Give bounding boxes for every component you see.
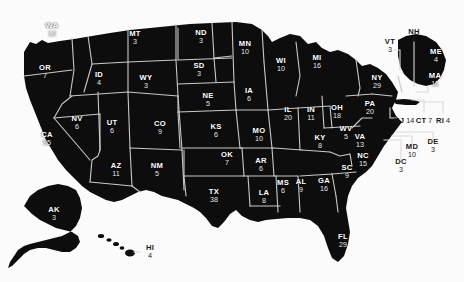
alaska-landmass — [8, 184, 82, 268]
contiguous-us-landmass — [24, 22, 402, 262]
leader-line-dc — [384, 140, 401, 160]
us-map-svg — [0, 0, 464, 282]
hawaii-islands — [98, 234, 135, 256]
electoral-map: WA12OR7CA55NV6ID4MT3WY3UT6AZ11CO9NM5ND3S… — [0, 0, 464, 282]
new-england-landmass — [398, 34, 446, 86]
leader-line-ma — [416, 86, 428, 92]
